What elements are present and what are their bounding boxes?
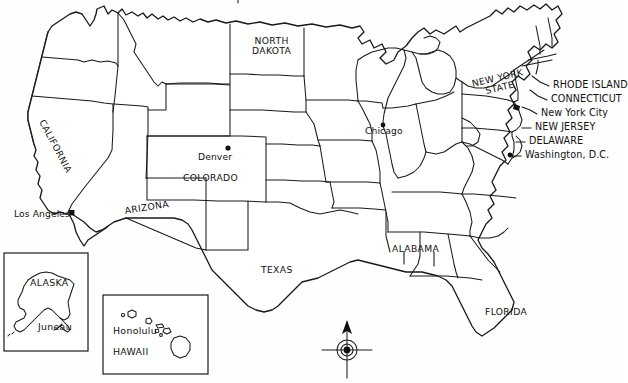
rhode-island-text: RHODE ISLAND <box>553 79 628 90</box>
kauai-island <box>128 310 136 318</box>
city-label-los-angeles: Los Angeles <box>14 209 70 219</box>
state-label-colorado: COLORADO <box>183 173 238 183</box>
kahoolawe-island <box>160 334 163 337</box>
border-ct-ri <box>536 60 538 74</box>
hawaii-big-island <box>171 336 190 358</box>
niihau-island <box>121 313 124 316</box>
compass-rose-group <box>322 320 372 378</box>
state-label-north-dakota: NORTH DAKOTA <box>252 36 291 56</box>
leader-new-york-city <box>522 107 537 114</box>
hawaii-text: HAWAII <box>113 346 148 357</box>
state-label-alabama: ALABAMA <box>392 244 439 254</box>
state-label-florida: FLORIDA <box>485 307 527 317</box>
border-md-chesapeake <box>508 132 514 164</box>
oahu-island <box>146 318 152 324</box>
contiguous-us-outline <box>28 4 562 336</box>
us-national-outline <box>28 4 562 336</box>
callout-label-new-jersey: NEW JERSEY <box>535 122 595 132</box>
chicago-text: Chicago <box>365 125 403 136</box>
alabama-text: ALABAMA <box>392 243 439 254</box>
city-label-denver: Denver <box>198 152 232 162</box>
leader-connecticut <box>530 90 547 100</box>
state-label-texas: TEXAS <box>261 265 293 275</box>
washington-dc-text: Washington, D.C. <box>525 149 609 160</box>
delaware-text: DELAWARE <box>529 135 583 146</box>
inset-label-hawaii: HAWAII <box>113 347 148 357</box>
new-york-city-text: New York City <box>541 107 608 118</box>
callout-label-washington-dc: Washington, D.C. <box>525 150 609 160</box>
denver-text: Denver <box>198 151 232 162</box>
texas-text: TEXAS <box>261 264 293 275</box>
callout-label-connecticut: CONNECTICUT <box>551 94 622 104</box>
border-ma-north <box>528 54 556 60</box>
honolulu-text: Honolulu <box>113 325 157 336</box>
city-label-chicago: Chicago <box>365 126 403 136</box>
compass-center-hub <box>344 347 351 354</box>
colorado-text: COLORADO <box>183 172 238 183</box>
maui-island <box>163 328 171 334</box>
new-york-city-dot <box>513 104 520 111</box>
los-angeles-text: Los Angeles <box>14 208 70 219</box>
north-dakota-line2: DAKOTA <box>252 46 291 56</box>
denver-dot <box>225 145 230 150</box>
new-jersey-text: NEW JERSEY <box>535 121 595 132</box>
leader-rhode-island <box>532 76 549 86</box>
washington-dc-dot <box>508 153 513 158</box>
callout-label-new-york-city: New York City <box>541 108 608 118</box>
florida-text: FLORIDA <box>485 306 527 317</box>
alaska-inset-group <box>4 253 88 351</box>
inset-label-alaska: ALASKA <box>30 278 68 288</box>
juneau-text: Juneau <box>38 321 72 332</box>
connecticut-text: CONNECTICUT <box>551 93 622 104</box>
molokai-island <box>156 324 164 328</box>
inset-label-juneau: Juneau <box>38 322 72 332</box>
inset-label-honolulu: Honolulu <box>113 326 157 336</box>
alaska-text: ALASKA <box>30 277 68 288</box>
callout-label-delaware: DELAWARE <box>529 136 583 146</box>
callout-label-rhode-island: RHODE ISLAND <box>553 80 628 90</box>
